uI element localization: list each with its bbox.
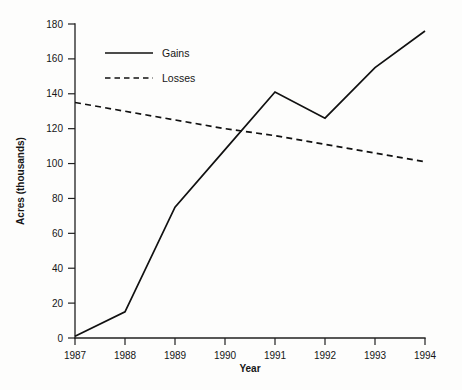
y-tick-label: 80 — [52, 193, 64, 204]
x-axis-title: Year — [239, 363, 260, 374]
y-axis-title: Acres (thousands) — [15, 137, 26, 225]
y-tick-label: 160 — [46, 53, 63, 64]
legend-label-gains: Gains — [162, 47, 189, 59]
y-tick-label: 180 — [46, 19, 63, 30]
chart-figure: 020406080100120140160180 198719881989199… — [0, 0, 462, 390]
x-tick-label: 1991 — [264, 350, 287, 361]
x-tick-label: 1992 — [314, 350, 337, 361]
y-tick-label: 0 — [57, 333, 63, 344]
y-tick-label: 60 — [52, 228, 64, 239]
y-tick-label: 100 — [46, 158, 63, 169]
y-tick-label: 20 — [52, 298, 64, 309]
x-tick-label: 1989 — [164, 350, 187, 361]
line-chart-canvas: 020406080100120140160180 198719881989199… — [0, 0, 462, 390]
x-tick-label: 1987 — [64, 350, 87, 361]
y-tick-label: 120 — [46, 123, 63, 134]
y-tick-label: 140 — [46, 88, 63, 99]
y-tick-label: 40 — [52, 263, 64, 274]
x-tick-label: 1990 — [214, 350, 237, 361]
y-axis-tick-labels: 020406080100120140160180 — [46, 19, 63, 344]
series-line-losses — [75, 103, 425, 162]
x-axis-ticks — [75, 338, 425, 345]
x-tick-label: 1988 — [114, 350, 137, 361]
x-axis-tick-labels: 19871988198919901991199219931994 — [64, 350, 437, 361]
x-tick-label: 1993 — [364, 350, 387, 361]
chart-legend: Gains Losses — [105, 47, 195, 84]
y-axis-ticks — [68, 24, 75, 338]
legend-label-losses: Losses — [162, 72, 195, 84]
x-tick-label: 1994 — [414, 350, 437, 361]
series-line-gains — [75, 31, 425, 336]
